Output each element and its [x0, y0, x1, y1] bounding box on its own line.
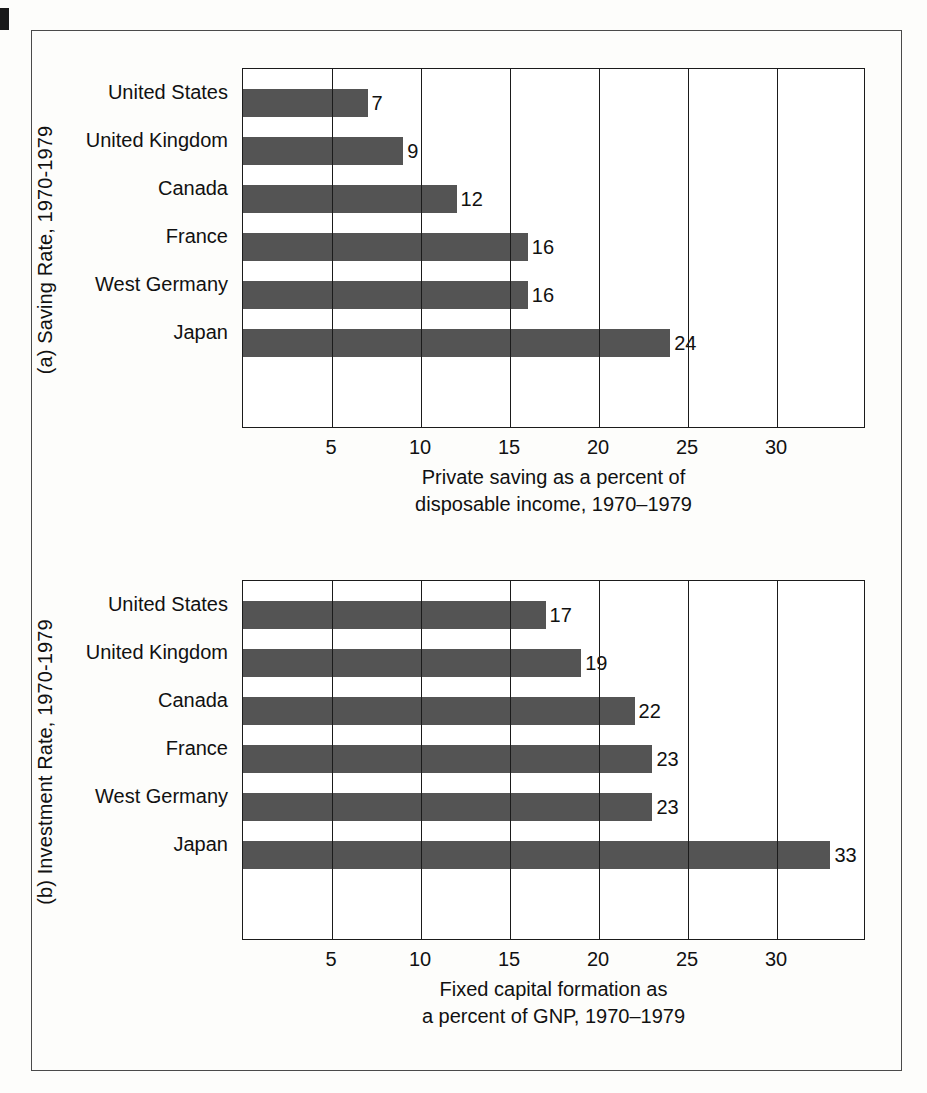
gridline: [332, 581, 333, 939]
bar: [243, 329, 670, 357]
figure-container: (a) Saving Rate, 1970-1979 United States…: [0, 0, 927, 1093]
panel-b-side-title-text: (b) Investment Rate, 1970-1979: [34, 619, 57, 904]
panel-saving-rate: (a) Saving Rate, 1970-1979 United States…: [0, 40, 927, 540]
bar-row: 22: [243, 687, 864, 735]
bar: [243, 793, 652, 821]
x-tick-label: 15: [498, 948, 520, 971]
category-label: United Kingdom: [60, 628, 235, 676]
panel-b-x-axis-caption: Fixed capital formation as a percent of …: [242, 976, 865, 1030]
panel-a-x-axis-caption-line1: Private saving as a percent of: [242, 464, 865, 491]
gridline: [777, 69, 778, 427]
panel-a-side-title-text: (a) Saving Rate, 1970-1979: [34, 126, 57, 374]
bar-value-label: 33: [830, 841, 856, 869]
category-label: Canada: [60, 164, 235, 212]
category-label: France: [60, 212, 235, 260]
bar: [243, 185, 457, 213]
panel-b-x-axis-ticks: 51015202530: [242, 940, 865, 974]
bar: [243, 281, 528, 309]
bar-row: 24: [243, 319, 864, 367]
x-tick-label: 20: [587, 436, 609, 459]
x-tick-label: 15: [498, 436, 520, 459]
panel-b-bars: 171922232333: [243, 591, 864, 879]
bar: [243, 745, 652, 773]
category-label: Japan: [60, 308, 235, 356]
bar-value-label: 22: [635, 697, 661, 725]
gridline: [599, 69, 600, 427]
panel-a-x-axis-ticks: 51015202530: [242, 428, 865, 462]
bar: [243, 697, 635, 725]
gridline: [599, 581, 600, 939]
panel-a-x-axis-caption: Private saving as a percent of disposabl…: [242, 464, 865, 518]
category-label: Canada: [60, 676, 235, 724]
bar-value-label: 24: [670, 329, 696, 357]
panel-b-x-axis-caption-line1: Fixed capital formation as: [242, 976, 865, 1003]
category-label: United States: [60, 68, 235, 116]
category-label: West Germany: [60, 260, 235, 308]
x-tick-label: 25: [676, 436, 698, 459]
page-edge-glyph: [0, 8, 9, 30]
bar-row: 17: [243, 591, 864, 639]
category-label: Japan: [60, 820, 235, 868]
bar: [243, 137, 403, 165]
bar-row: 23: [243, 735, 864, 783]
gridline: [777, 581, 778, 939]
bar: [243, 649, 581, 677]
x-tick-label: 30: [765, 436, 787, 459]
bar-value-label: 7: [368, 89, 383, 117]
panel-a-side-title: (a) Saving Rate, 1970-1979: [32, 60, 58, 440]
panel-b-plot-area: 171922232333: [242, 580, 865, 940]
gridline: [688, 581, 689, 939]
gridline: [332, 69, 333, 427]
bar-value-label: 19: [581, 649, 607, 677]
bar-value-label: 9: [403, 137, 418, 165]
bar-value-label: 16: [528, 233, 554, 261]
panel-investment-rate: (b) Investment Rate, 1970-1979 United St…: [0, 552, 927, 1052]
bar-row: 19: [243, 639, 864, 687]
panel-b-category-labels: United States United Kingdom Canada Fran…: [60, 580, 235, 868]
panel-b-x-axis-caption-line2: a percent of GNP, 1970–1979: [242, 1003, 865, 1030]
bar: [243, 601, 546, 629]
category-label: United States: [60, 580, 235, 628]
x-tick-label: 5: [325, 948, 336, 971]
bar: [243, 89, 368, 117]
bar-row: 16: [243, 271, 864, 319]
bar-value-label: 23: [652, 745, 678, 773]
bar-value-label: 16: [528, 281, 554, 309]
category-label: United Kingdom: [60, 116, 235, 164]
bar-row: 33: [243, 831, 864, 879]
bar-row: 12: [243, 175, 864, 223]
gridline: [421, 69, 422, 427]
panel-a-x-axis-caption-line2: disposable income, 1970–1979: [242, 491, 865, 518]
gridline: [688, 69, 689, 427]
gridline: [510, 581, 511, 939]
category-label: West Germany: [60, 772, 235, 820]
bar-value-label: 12: [457, 185, 483, 213]
bar-row: 9: [243, 127, 864, 175]
panel-a-plot-area: 7912161624: [242, 68, 865, 428]
bar: [243, 233, 528, 261]
x-tick-label: 30: [765, 948, 787, 971]
x-tick-label: 20: [587, 948, 609, 971]
panel-b-side-title: (b) Investment Rate, 1970-1979: [32, 572, 58, 952]
bar-value-label: 17: [546, 601, 572, 629]
gridline: [421, 581, 422, 939]
panel-a-category-labels: United States United Kingdom Canada Fran…: [60, 68, 235, 356]
bar-row: 7: [243, 79, 864, 127]
x-tick-label: 5: [325, 436, 336, 459]
category-label: France: [60, 724, 235, 772]
x-tick-label: 25: [676, 948, 698, 971]
bar-row: 23: [243, 783, 864, 831]
x-tick-label: 10: [409, 436, 431, 459]
gridline: [510, 69, 511, 427]
bar-row: 16: [243, 223, 864, 271]
x-tick-label: 10: [409, 948, 431, 971]
panel-a-bars: 7912161624: [243, 79, 864, 367]
bar-value-label: 23: [652, 793, 678, 821]
